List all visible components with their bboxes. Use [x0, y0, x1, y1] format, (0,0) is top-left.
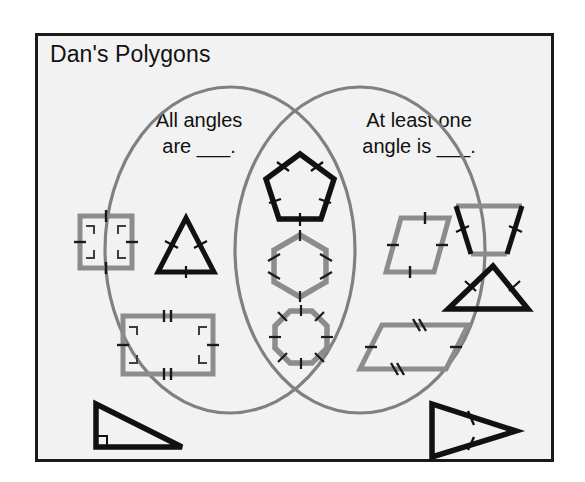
- worksheet-image: Dan's Polygons All angles are ___. At le…: [0, 0, 585, 482]
- page-title: Dan's Polygons: [50, 41, 211, 68]
- venn-right-label: At least one angle is ___.: [330, 108, 508, 159]
- diagram-frame: [35, 33, 554, 462]
- venn-left-label: All angles are ___.: [114, 108, 284, 159]
